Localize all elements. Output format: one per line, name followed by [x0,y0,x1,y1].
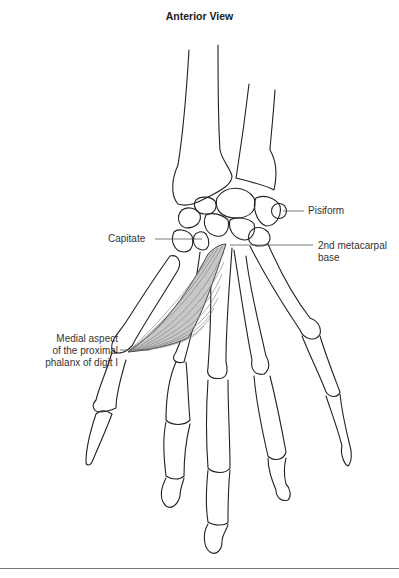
carpal-bones [172,188,286,252]
ulna-bone [236,84,276,190]
radius-bone [173,45,232,205]
label-medial-line3: phalanx of digit I [10,357,118,369]
label-medial-line2: of the proximal [10,345,118,357]
label-medial-line1: Medial aspect [10,333,118,345]
bottom-divider [0,568,399,569]
leader-lines [120,211,313,350]
label-pisiform: Pisiform [308,205,344,217]
label-2nd-metacarpal-base: 2nd metacarpal base [318,240,387,264]
label-metacarpal-line1: 2nd metacarpal [318,240,387,252]
label-metacarpal-line2: base [318,252,387,264]
digit-4-ring [234,250,290,501]
digit-5-little [250,244,351,466]
label-medial-aspect: Medial aspect of the proximal phalanx of… [10,333,118,369]
label-capitate: Capitate [108,233,145,245]
hand-skeleton-illustration [0,0,399,578]
